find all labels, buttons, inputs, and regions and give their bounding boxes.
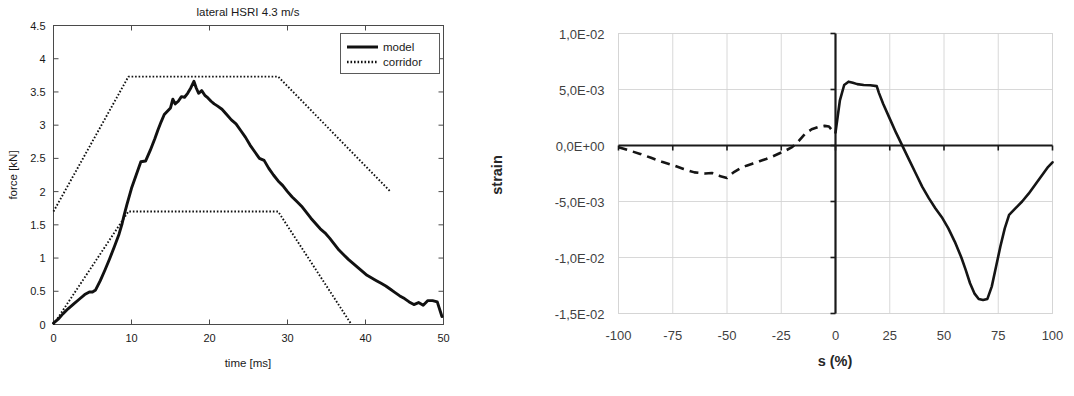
x-tick-label: 0 [832, 328, 839, 343]
y-tick-label: 1,0E-02 [559, 27, 605, 42]
x-tick-label: 50 [937, 328, 951, 343]
x-tick-label: 10 [125, 332, 137, 344]
x-tick-label: 40 [359, 332, 371, 344]
figure-root: lateral HSRI 4.3 m/s 00.511.522.533.544.… [0, 0, 1074, 396]
x-tick-label: 0 [50, 332, 56, 344]
y-tick-label: -1,5E-02 [555, 307, 605, 322]
y-tick-label: 0,0E+00 [556, 139, 605, 154]
y-tick-label: 1.5 [30, 219, 45, 231]
y-tick-label: -5,0E-03 [555, 195, 605, 210]
chart-title-left: lateral HSRI 4.3 m/s [197, 6, 300, 18]
y-tick-label: 0 [39, 319, 45, 331]
y-tick-label: -1,0E-02 [555, 251, 605, 266]
x-axis-label-left: time [ms] [225, 357, 272, 369]
force-time-svg: lateral HSRI 4.3 m/s 00.511.522.533.544.… [0, 0, 500, 396]
x-tick-label: 75 [991, 328, 1005, 343]
series-corridor-upper [54, 77, 391, 212]
x-tick-label: -25 [772, 328, 791, 343]
legend-left: model corridor [341, 34, 440, 74]
zero-axes-right [619, 34, 1053, 314]
y-tick-label: 0.5 [30, 285, 45, 297]
y-axis-ticks-right: 1,0E-025,0E-030,0E+00-5,0E-03-1,0E-02-1,… [555, 27, 605, 322]
y-tick-label: 4.5 [30, 20, 45, 32]
y-tick-label: 5,0E-03 [559, 83, 605, 98]
x-tick-label: -100 [605, 328, 631, 343]
series-model [54, 81, 442, 323]
x-tick-label: 100 [1042, 328, 1064, 343]
x-tick-label: 20 [203, 332, 215, 344]
y-tick-label: 3 [39, 119, 45, 131]
x-axis-ticks-right: -100-75-50-250255075100 [605, 328, 1063, 343]
y-tick-label: 3.5 [30, 86, 45, 98]
x-tick-label: -50 [718, 328, 737, 343]
strain-svg: 1,0E-025,0E-030,0E+00-5,0E-03-1,0E-02-1,… [470, 0, 1074, 396]
x-axis-label-right: s (%) [818, 353, 853, 369]
series-strain-negative-branch [619, 126, 834, 178]
series-corridor-lower [54, 212, 352, 325]
chart-panel-strain: 1,0E-025,0E-030,0E+00-5,0E-03-1,0E-02-1,… [470, 0, 1074, 396]
chart-panel-force-time: lateral HSRI 4.3 m/s 00.511.522.533.544.… [0, 0, 500, 396]
y-axis-label-right: strain [489, 155, 505, 195]
x-tick-label: 50 [437, 332, 449, 344]
data-series-group-left [54, 77, 442, 325]
legend-label-model: model [383, 41, 414, 53]
x-tick-label: -75 [663, 328, 682, 343]
y-axis-label-left: force [kN] [7, 150, 19, 199]
y-tick-label: 2 [39, 186, 45, 198]
x-tick-label: 30 [281, 332, 293, 344]
legend-label-corridor: corridor [383, 56, 422, 68]
y-tick-label: 1 [39, 252, 45, 264]
x-tick-label: 25 [883, 328, 897, 343]
y-tick-label: 4 [39, 53, 45, 65]
y-tick-label: 2.5 [30, 152, 45, 164]
